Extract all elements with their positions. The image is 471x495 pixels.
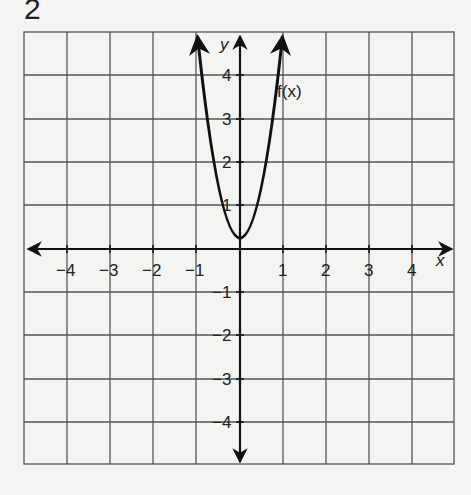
svg-text:1: 1 bbox=[222, 196, 231, 215]
svg-text:−1: −1 bbox=[185, 261, 204, 280]
svg-text:−2: −2 bbox=[212, 326, 231, 345]
axes bbox=[28, 36, 452, 462]
svg-text:−4: −4 bbox=[212, 413, 231, 432]
x-tick-labels: −4 −3 −2 −1 1 2 3 4 bbox=[56, 261, 416, 280]
svg-text:2: 2 bbox=[321, 261, 330, 280]
svg-text:−2: −2 bbox=[142, 261, 161, 280]
svg-text:−3: −3 bbox=[99, 261, 118, 280]
x-axis-label: x bbox=[435, 251, 445, 270]
curve-label: f(x) bbox=[277, 82, 302, 101]
svg-text:4: 4 bbox=[407, 261, 416, 280]
svg-text:−3: −3 bbox=[212, 370, 231, 389]
svg-text:4: 4 bbox=[222, 66, 231, 85]
svg-text:3: 3 bbox=[364, 261, 373, 280]
svg-text:1: 1 bbox=[278, 261, 287, 280]
y-axis-label: y bbox=[219, 35, 230, 54]
svg-text:3: 3 bbox=[222, 110, 231, 129]
svg-text:−1: −1 bbox=[212, 283, 231, 302]
svg-text:2: 2 bbox=[222, 153, 231, 172]
svg-text:−4: −4 bbox=[56, 261, 75, 280]
coordinate-plane: −4 −3 −2 −1 1 2 3 4 4 3 2 1 −1 −2 −3 −4 … bbox=[0, 0, 471, 495]
